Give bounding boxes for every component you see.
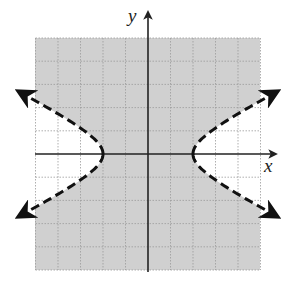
y-axis-label: y bbox=[126, 5, 137, 26]
x-axis-label: x bbox=[263, 155, 273, 176]
hyperbola-inequality-graph: y x bbox=[0, 0, 306, 295]
